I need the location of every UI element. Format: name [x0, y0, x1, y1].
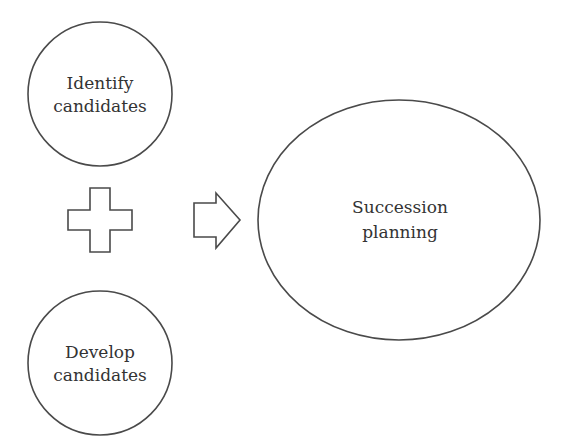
- right-arrow-icon: [194, 193, 240, 248]
- node-develop-candidates: Develop candidates: [28, 291, 172, 435]
- plus-icon: [68, 188, 132, 252]
- identify-label-line1: Identify: [67, 73, 134, 93]
- succession-label-line1: Succession: [352, 197, 448, 217]
- node-identify-candidates: Identify candidates: [28, 22, 172, 166]
- succession-ellipse: [258, 100, 540, 340]
- develop-circle: [28, 291, 172, 435]
- identify-label-line2: candidates: [53, 96, 147, 116]
- node-succession-planning: Succession planning: [258, 100, 540, 340]
- develop-label-line1: Develop: [65, 342, 135, 362]
- succession-diagram: Identify candidates Develop candidates S…: [0, 0, 561, 446]
- identify-circle: [28, 22, 172, 166]
- succession-label-line2: planning: [362, 222, 438, 242]
- develop-label-line2: candidates: [53, 365, 147, 385]
